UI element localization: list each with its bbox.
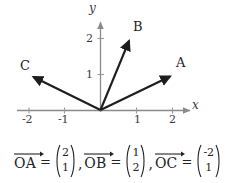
vector-name-OB: OB (84, 152, 106, 171)
vector-name-OC-text: OC (155, 155, 178, 171)
over-arrow-icon (14, 151, 44, 157)
column-vector-OA-values: 2 1 (61, 146, 70, 176)
column-vector-OC-y: 1 (205, 161, 212, 176)
y-tick-label-2: 2 (86, 32, 93, 45)
vector-name-OC: OC (155, 152, 178, 171)
x-tick-label-1: 1 (134, 113, 141, 126)
x-axis-label: x (192, 98, 199, 112)
right-paren-icon (140, 144, 147, 178)
column-vector-OA-x: 2 (62, 146, 69, 161)
vector-name-OB-text: OB (84, 155, 106, 171)
x-tick-label-neg1: -1 (58, 113, 68, 126)
column-vector-OB-x: 1 (132, 146, 139, 161)
column-vector-OA-y: 1 (62, 161, 69, 176)
x-tick-label-2: 2 (169, 113, 176, 126)
left-paren-icon (124, 144, 131, 178)
equation-term-OC: OC = -2 1 (155, 144, 222, 178)
column-vector-OB-y: 2 (132, 161, 139, 176)
right-paren-icon (215, 144, 222, 178)
equation-term-OA: OA = 2 1 (14, 144, 77, 178)
vector-OB (101, 41, 130, 110)
point-label-B: B (133, 19, 143, 34)
left-paren-icon (54, 144, 61, 178)
column-vector-OB-values: 1 2 (131, 146, 140, 176)
equation-separator-2: , (148, 150, 152, 172)
vector-OA (101, 77, 171, 111)
right-paren-icon (70, 144, 77, 178)
equation-separator-1: , (78, 150, 82, 172)
vector-equation-row: OA = 2 1 , (14, 139, 239, 183)
y-tick-label-1: 1 (86, 68, 93, 81)
equation-term-OB: OB = 1 2 (84, 144, 147, 178)
vector-name-OA: OA (14, 152, 36, 171)
vector-plot (0, 0, 239, 135)
axis-lines (17, 22, 190, 112)
left-paren-icon (195, 144, 202, 178)
over-arrow-icon (155, 151, 185, 157)
vector-arrows (34, 41, 171, 110)
column-vector-OC-values: -2 1 (202, 146, 215, 176)
x-tick-label-neg2: -2 (22, 113, 32, 126)
over-arrow-icon (84, 151, 114, 157)
point-label-A: A (176, 55, 185, 70)
vector-OC (34, 77, 101, 110)
column-vector-OB: 1 2 (124, 144, 147, 178)
column-vector-OA: 2 1 (54, 144, 77, 178)
column-vector-OC-x: -2 (203, 146, 214, 161)
column-vector-OC: -2 1 (195, 144, 222, 178)
point-label-C: C (20, 58, 30, 73)
y-axis-label: y (89, 1, 96, 15)
vector-diagram-page: -2 -1 1 2 1 2 x y A B C OA = (0, 0, 239, 183)
vector-name-OA-text: OA (14, 155, 36, 171)
